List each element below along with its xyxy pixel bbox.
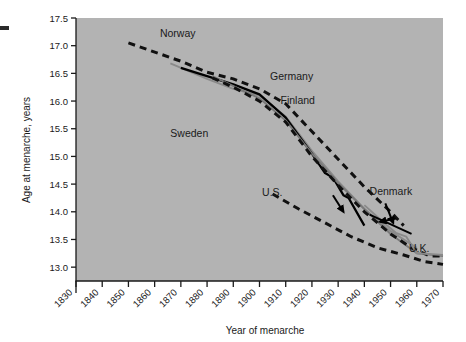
- series-label-norway: Norway: [160, 27, 196, 39]
- y-tick-label: 14.0: [50, 206, 69, 217]
- series-label-finland: Finland: [280, 94, 315, 106]
- x-tick-label: 1850: [104, 287, 127, 310]
- x-tick-label: 1870: [157, 287, 180, 310]
- y-axis-title: Age at menarche, years: [21, 97, 32, 203]
- x-tick-label: 1910: [261, 287, 284, 310]
- y-tick-label: 16.0: [50, 96, 69, 107]
- x-tick-label: 1830: [52, 287, 75, 310]
- y-axis: 13.013.514.014.515.015.516.016.517.017.5: [50, 13, 77, 294]
- corner-crop-mark: [0, 26, 9, 30]
- y-tick-label: 17.0: [50, 40, 69, 51]
- y-tick-label: 16.5: [50, 68, 69, 79]
- chart-figure: 13.013.514.014.515.015.516.016.517.017.5…: [0, 0, 466, 342]
- y-tick-label: 15.5: [50, 123, 69, 134]
- series-label-germany: Germany: [270, 70, 314, 82]
- plot-area-background: [76, 18, 443, 281]
- series-label-denmark: Denmark: [370, 185, 413, 197]
- y-tick-label: 13.0: [50, 262, 69, 273]
- x-tick-label: 1960: [392, 287, 415, 310]
- menarche-age-line-chart: 13.013.514.014.515.015.516.016.517.017.5…: [0, 0, 466, 342]
- y-tick-label: 17.5: [50, 13, 69, 24]
- x-tick-label: 1840: [78, 287, 101, 310]
- x-tick-label: 1890: [209, 287, 232, 310]
- y-tick-label: 14.5: [50, 179, 69, 190]
- series-label-sweden: Sweden: [170, 127, 208, 139]
- x-tick-label: 1940: [340, 287, 363, 310]
- x-tick-label: 1860: [130, 287, 153, 310]
- y-tick-label: 13.5: [50, 234, 69, 245]
- x-tick-label: 1920: [288, 287, 311, 310]
- x-tick-label: 1880: [183, 287, 206, 310]
- x-axis-title: Year of menarche: [226, 325, 305, 336]
- x-axis: 1830184018501860187018801890190019101920…: [52, 281, 443, 309]
- y-tick-label: 15.0: [50, 151, 69, 162]
- series-label-uk: U.K.: [409, 242, 429, 254]
- x-tick-label: 1930: [314, 287, 337, 310]
- x-tick-label: 1970: [419, 287, 442, 310]
- series-label-us: U.S.: [262, 186, 282, 198]
- x-tick-label: 1950: [366, 287, 389, 310]
- x-tick-label: 1900: [235, 287, 258, 310]
